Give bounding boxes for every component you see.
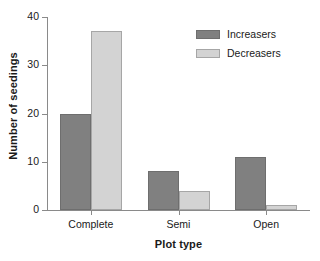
x-tick: [179, 210, 180, 215]
x-tick: [266, 210, 267, 215]
bar-group: [60, 17, 122, 210]
bar-decreasers-semi: [179, 191, 210, 210]
category-label: Semi: [135, 218, 223, 231]
category-label: Complete: [47, 218, 135, 231]
x-axis-title: Plot type: [47, 238, 310, 250]
legend-swatch-decreasers: [196, 49, 220, 58]
legend: IncreasersDecreasers: [196, 26, 281, 64]
legend-item-increasers: Increasers: [196, 26, 281, 42]
y-tick-label: 40: [27, 10, 39, 23]
y-tick-label: 0: [33, 203, 39, 216]
bar-increasers-semi: [148, 171, 179, 210]
y-axis-title: Number of seedings: [2, 0, 24, 212]
bar-increasers-open: [235, 157, 266, 210]
y-tick: 0: [42, 210, 47, 211]
bar-chart: Number of seedings 010203040 CompleteSem…: [0, 0, 320, 261]
legend-item-decreasers: Decreasers: [196, 45, 281, 61]
x-tick: [91, 210, 92, 215]
bar-decreasers-complete: [91, 31, 122, 210]
category-label: Open: [222, 218, 310, 231]
y-tick-label: 30: [27, 58, 39, 71]
legend-label: Increasers: [227, 28, 276, 41]
y-tick-label: 10: [27, 155, 39, 168]
bar-decreasers-open: [266, 205, 297, 210]
y-tick-label: 20: [27, 107, 39, 120]
x-axis-title-text: Plot type: [155, 238, 202, 250]
bar-increasers-complete: [60, 114, 91, 211]
legend-label: Decreasers: [227, 47, 281, 60]
legend-swatch-increasers: [196, 30, 220, 39]
y-axis-title-text: Number of seedings: [7, 52, 19, 160]
